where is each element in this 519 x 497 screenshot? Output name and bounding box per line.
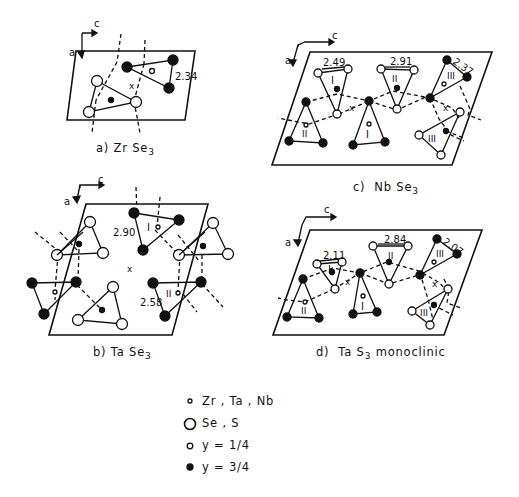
svg-text:x: x: [127, 264, 133, 274]
panel-b-tase3: I 2.90 II 2.58 x: [27, 182, 234, 335]
bond-label-c2: 2.91: [390, 56, 412, 67]
svg-text:x: x: [349, 103, 355, 113]
bond-label-a: 2.34: [175, 71, 197, 82]
svg-text:I: I: [147, 222, 150, 233]
axis-c-label-c: c: [332, 30, 338, 41]
svg-text:III: III: [436, 249, 444, 259]
panel-c-nbse3: I 2.49 II x I II 2.91 III 2.37 x III: [272, 39, 492, 165]
caption-c: c) Nb Se3: [353, 180, 419, 196]
small-open-circle-icon: [188, 399, 192, 403]
caption-d: d) Ta S3 monoclinic: [316, 345, 446, 361]
svg-text:I: I: [366, 129, 369, 140]
crystal-structure-diagram: x 2.34 I 2.49 II x: [0, 0, 519, 497]
bond-label-b1: 2.90: [113, 227, 135, 238]
svg-text:x: x: [129, 81, 135, 91]
svg-text:x: x: [432, 279, 438, 289]
svg-text:I: I: [361, 301, 364, 312]
bond-label-b2: 2.58: [140, 297, 162, 308]
axis-a-label-b: a: [64, 196, 71, 207]
svg-text:II: II: [392, 74, 397, 84]
svg-text:II: II: [166, 289, 171, 299]
bond-label-c1: 2.49: [323, 57, 345, 68]
svg-text:III: III: [420, 308, 428, 318]
svg-text:I: I: [331, 75, 334, 86]
svg-text:III: III: [428, 134, 436, 144]
medium-open-circle-icon: [187, 443, 193, 449]
legend-item-y-three-quarter: y = 3/4: [202, 460, 250, 474]
svg-text:x: x: [345, 277, 351, 287]
panel-d-tas3: I 2.11 II x I II 2.84 III 2.07 x III: [273, 214, 482, 335]
large-open-circle-icon: [185, 419, 196, 430]
filled-circle-icon: [187, 464, 193, 470]
legend-item-y-quarter: y = 1/4: [202, 438, 250, 452]
svg-text:x: x: [443, 103, 449, 113]
caption-b: b) Ta Se3: [93, 345, 152, 361]
caption-a: a) Zr Se3: [96, 141, 155, 157]
axis-a-label-d: a: [285, 237, 292, 248]
legend-item-metal: Zr , Ta , Nb: [202, 394, 274, 408]
svg-text:II: II: [301, 306, 306, 316]
axis-c-label-a: c: [94, 18, 100, 29]
axis-c-label-b: c: [98, 174, 104, 185]
svg-text:III: III: [447, 71, 455, 81]
axis-a-label-a: a: [69, 47, 76, 58]
legend-symbols: [185, 399, 196, 470]
axis-c-label-d: c: [324, 204, 330, 215]
svg-text:II: II: [388, 251, 393, 261]
legend-item-chalcogen: Se , S: [202, 416, 239, 430]
svg-text:I: I: [328, 264, 331, 275]
svg-text:II: II: [302, 129, 307, 139]
panel-a-zrse3: x 2.34: [67, 30, 197, 133]
axis-a-label-c: a: [285, 55, 292, 66]
